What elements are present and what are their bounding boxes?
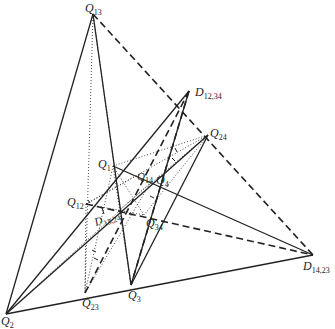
label-d12-34: D12,34	[194, 85, 222, 101]
label-q3: Q3	[128, 288, 141, 304]
label-q12: Q12	[67, 195, 84, 211]
label-q23: Q23	[82, 296, 99, 312]
label-q2: Q2	[1, 314, 14, 329]
label-q13: Q13	[85, 1, 102, 17]
quadrilateral-diagram: Q13 D12,34 Q24 Q1 Q14 Q4 Q12 D13,24 Q34 …	[0, 0, 335, 329]
label-d13-24: D13,24	[92, 208, 122, 231]
label-q1: Q1	[98, 157, 111, 173]
label-q4: Q4	[156, 173, 169, 189]
label-q34: Q34	[146, 216, 163, 232]
solid-lines	[6, 14, 313, 314]
label-d14-23: D14,23	[302, 259, 330, 275]
label-q24: Q24	[210, 126, 227, 142]
label-q14: Q14	[137, 170, 153, 185]
point-labels: Q13 D12,34 Q24 Q1 Q14 Q4 Q12 D13,24 Q34 …	[1, 1, 330, 329]
